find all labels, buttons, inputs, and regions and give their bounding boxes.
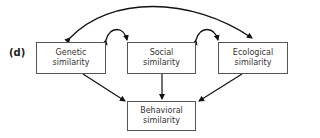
node-label: similarity	[143, 116, 180, 125]
node-label: Social	[150, 48, 174, 57]
node-label: similarity	[143, 58, 180, 67]
node-genetic-similarity: Geneticsimilarity	[36, 42, 106, 74]
node-ecological-similarity: Ecologicalsimilarity	[218, 42, 288, 74]
node-label: similarity	[53, 58, 90, 67]
node-behavioral-similarity: Behavioralsimilarity	[127, 101, 196, 131]
edge-genetic-social	[106, 30, 127, 41]
node-label: Ecological	[233, 48, 273, 57]
node-social-similarity: Socialsimilarity	[127, 42, 196, 74]
edge-genetic-ecological	[70, 7, 252, 39]
edge-genetic-behavioral	[83, 74, 125, 101]
edge-social-ecological	[196, 30, 218, 41]
node-label: similarity	[235, 58, 272, 67]
edge-ecological-behavioral	[199, 74, 242, 101]
node-label: Behavioral	[140, 106, 183, 115]
node-label: Genetic	[56, 48, 87, 57]
